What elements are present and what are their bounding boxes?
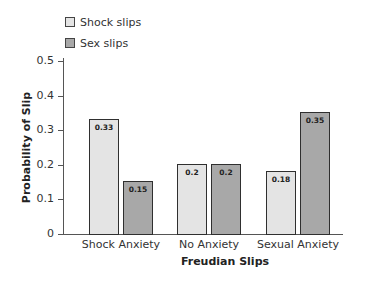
legend-label: Sex slips: [80, 37, 128, 50]
legend-swatch-dark: [65, 38, 75, 48]
x-category-label: No Anxiety: [169, 238, 249, 251]
bar-no-anxiety-shock-slips: 0.2: [177, 164, 207, 235]
legend-swatch-light: [65, 17, 75, 27]
y-tick: [58, 234, 63, 235]
bar-value-label: 0.33: [90, 123, 118, 132]
bar-value-label: 0.2: [212, 168, 240, 177]
bar-value-label: 0.35: [301, 116, 329, 125]
bar-sexual-anxiety-sex-slips: 0.35: [300, 112, 330, 235]
bar-value-label: 0.18: [267, 175, 295, 184]
y-tick: [58, 96, 63, 97]
y-axis: [63, 58, 64, 235]
x-category-label: Sexual Anxiety: [253, 238, 343, 251]
x-category-label: Shock Anxiety: [81, 238, 161, 251]
legend-item-shock-slips: Shock slips: [65, 16, 141, 28]
bar-value-label: 0.15: [124, 185, 152, 194]
bar-sexual-anxiety-shock-slips: 0.18: [266, 171, 296, 235]
y-tick-label: 0: [20, 228, 54, 240]
bar-shock-anxiety-shock-slips: 0.33: [89, 119, 119, 235]
bar-shock-anxiety-sex-slips: 0.15: [123, 181, 153, 235]
bar-no-anxiety-sex-slips: 0.2: [211, 164, 241, 235]
y-axis-title: Probability of Slip: [20, 88, 33, 208]
x-axis-title: Freudian Slips: [155, 255, 295, 268]
legend-item-sex-slips: Sex slips: [65, 37, 128, 49]
legend-label: Shock slips: [80, 16, 141, 29]
bar-value-label: 0.2: [178, 168, 206, 177]
y-tick: [58, 165, 63, 166]
y-tick: [58, 130, 63, 131]
y-tick: [58, 199, 63, 200]
y-tick-label: 0.5: [20, 55, 54, 67]
y-tick: [58, 61, 63, 62]
